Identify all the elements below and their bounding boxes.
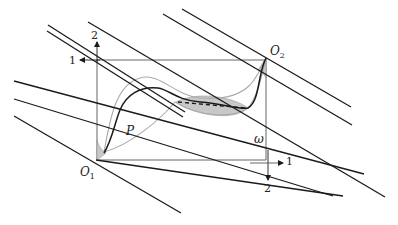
label-omega: ω xyxy=(254,132,264,146)
label-right-axis-2: 2 xyxy=(264,182,271,195)
label-o2: O2 xyxy=(270,44,285,60)
label-bottom-axis-1: 1 xyxy=(286,155,293,168)
label-p: P xyxy=(125,124,135,138)
label-left-axis-2: 2 xyxy=(91,29,98,42)
label-o1: O1 xyxy=(80,165,95,181)
parallel-line-c xyxy=(88,22,385,197)
parallel-line-h xyxy=(96,160,343,196)
diagram-canvas: 2 1 2 1 O1 O2 P ω xyxy=(0,0,398,225)
parallel-line-f xyxy=(14,99,333,196)
parallel-line-g xyxy=(14,116,181,213)
axis-arrows xyxy=(80,42,283,180)
label-top-axis-1: 1 xyxy=(69,54,76,67)
